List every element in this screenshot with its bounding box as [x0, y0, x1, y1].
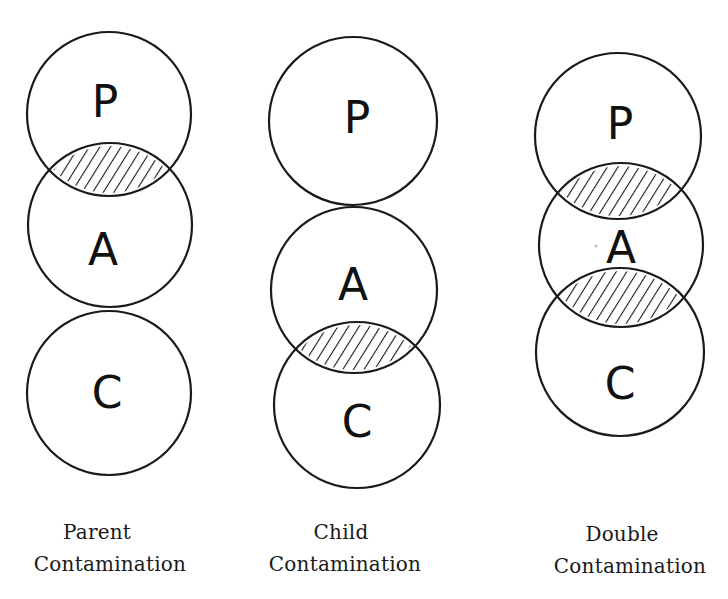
caption-double-contamination: Double Contamination [530, 518, 728, 582]
label-a: A [338, 259, 368, 310]
caption-line-2: Contamination [530, 550, 728, 582]
caption-line-1: Double [522, 518, 722, 550]
label-p: P [344, 92, 371, 143]
caption-line-1: Parent [0, 516, 197, 548]
label-c: C [342, 396, 373, 447]
label-c: C [605, 358, 636, 409]
diagram-canvas: P A C P A C P A C [0, 0, 728, 599]
label-a: A [88, 224, 118, 275]
label-p: P [92, 76, 119, 127]
caption-line-2: Contamination [245, 548, 445, 580]
caption-line-1: Child [241, 516, 441, 548]
label-p: P [607, 98, 634, 149]
caption-child-contamination: Child Contamination [245, 516, 445, 580]
parent-contamination-diagram: P A C [27, 32, 192, 475]
caption-parent-contamination: Parent Contamination [10, 516, 210, 580]
venn-diagram-figure: g P A C [0, 0, 728, 599]
label-a: A [606, 222, 636, 273]
child-contamination-diagram: P A C [269, 37, 440, 488]
double-contamination-diagram: P A C [535, 53, 704, 436]
caption-line-2: Contamination [10, 548, 210, 580]
label-c: C [92, 367, 123, 418]
smudge-mark [595, 245, 598, 248]
